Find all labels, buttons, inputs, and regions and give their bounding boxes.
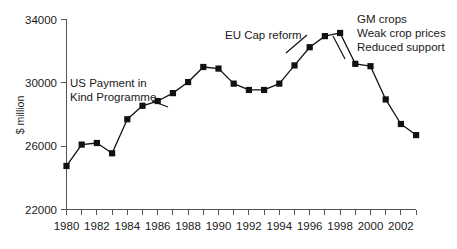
data-point-1985 — [139, 103, 145, 109]
annotation-eu-cap-reform: EU Cap reform — [225, 29, 302, 41]
data-point-2003 — [413, 132, 419, 138]
x-tick-label-1988: 1988 — [175, 220, 201, 232]
data-point-1995 — [291, 62, 297, 68]
y-tick-label-22000: 22000 — [25, 204, 57, 216]
data-point-2000 — [367, 63, 373, 69]
annotation-us-payment-line1: US Payment in — [70, 77, 147, 89]
x-tick-label-1998: 1998 — [327, 220, 353, 232]
x-tick-label-1986: 1986 — [145, 220, 171, 232]
data-point-1990 — [215, 65, 221, 71]
chart-container: 34000 30000 26000 22000 $ million — [0, 0, 457, 249]
data-point-1999 — [352, 61, 358, 67]
data-point-1994 — [276, 81, 282, 87]
data-point-1993 — [261, 87, 267, 93]
annotation-gm-crops: GM crops Weak crop prices Reduced suppor… — [357, 13, 446, 53]
x-tick-label-1992: 1992 — [236, 220, 262, 232]
x-tick-label-1984: 1984 — [115, 220, 141, 232]
annotation-eu-cap-line1: EU Cap reform — [225, 29, 302, 41]
data-point-1998 — [337, 30, 343, 36]
data-point-1983 — [109, 150, 115, 156]
annotation-us-payment-line2: Kind Programme — [70, 91, 156, 103]
annotation-gm-line1: GM crops — [357, 13, 407, 25]
x-tick-label-1994: 1994 — [267, 220, 293, 232]
data-point-1984 — [124, 116, 130, 122]
x-tick-label-2000: 2000 — [358, 220, 384, 232]
y-tick-label-34000: 34000 — [25, 14, 57, 26]
x-tick-label-2002: 2002 — [388, 220, 414, 232]
data-point-1987 — [170, 90, 176, 96]
y-tick-marks — [61, 20, 67, 210]
y-tick-label-26000: 26000 — [25, 140, 57, 152]
data-point-1991 — [231, 81, 237, 87]
x-tick-label-1982: 1982 — [84, 220, 110, 232]
x-tick-marks — [67, 210, 417, 216]
x-tick-label-1996: 1996 — [297, 220, 323, 232]
data-point-1997 — [322, 33, 328, 39]
data-point-1992 — [246, 87, 252, 93]
y-tick-label-30000: 30000 — [25, 77, 57, 89]
annotation-gm-line2: Weak crop prices — [357, 27, 446, 39]
annotation-gm-line3: Reduced support — [357, 41, 445, 53]
x-tick-labels: 1980 1982 1984 1986 1988 1990 1992 1994 … — [54, 220, 414, 232]
data-point-1996 — [307, 44, 313, 50]
data-point-1982 — [94, 140, 100, 146]
data-point-2002 — [398, 121, 404, 127]
x-tick-label-1990: 1990 — [206, 220, 232, 232]
line-chart: 34000 30000 26000 22000 $ million — [0, 0, 457, 249]
data-point-1988 — [185, 79, 191, 85]
data-point-1989 — [200, 64, 206, 70]
y-axis-title: $ million — [14, 96, 26, 135]
y-tick-labels: 34000 30000 26000 22000 — [25, 14, 57, 216]
annotation-us-payment: US Payment in Kind Programme — [70, 77, 156, 103]
data-point-1980 — [63, 163, 69, 169]
annotation-leaders — [152, 35, 345, 107]
data-point-1981 — [79, 141, 85, 147]
x-tick-label-1980: 1980 — [54, 220, 80, 232]
data-point-2001 — [383, 96, 389, 102]
